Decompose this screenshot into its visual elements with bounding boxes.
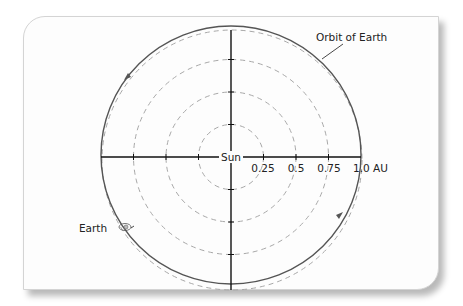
orbit-direction-arrow-bottom-right [336, 212, 343, 219]
orbit-diagram: Sun 0.25 0.5 0.75 1.0 AU Orbit of Earth … [0, 0, 463, 306]
earth-icon [119, 224, 134, 231]
scale-label-0-75: 0.75 [317, 162, 340, 174]
orbit-of-earth-label: Orbit of Earth [316, 31, 387, 43]
scale-label-1-0-au: 1.0 AU [353, 162, 388, 174]
orbit-label-leader-line [322, 44, 343, 59]
scale-label-0-5: 0.5 [288, 162, 305, 174]
sun-label: Sun [221, 151, 241, 163]
scale-label-0-25: 0.25 [251, 162, 274, 174]
earth-label: Earth [79, 222, 107, 234]
